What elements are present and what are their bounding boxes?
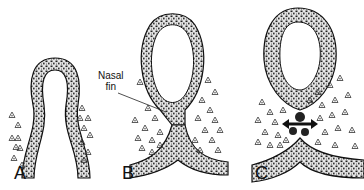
panel-a-fold: [22, 58, 90, 178]
panel-b-fold: [130, 14, 228, 178]
panel-c-fold: [252, 8, 364, 182]
panel-label-b: B: [122, 163, 134, 184]
nasal-fin-label-line1: Nasal: [98, 70, 124, 81]
diagram-canvas: [0, 0, 364, 190]
nasal-fin-label: Nasal fin: [98, 70, 124, 92]
panel-label-c: C: [255, 163, 268, 184]
nasal-fin-label-line2: fin: [98, 81, 124, 92]
panel-c-fin-remnant: [282, 112, 318, 136]
panel-label-a: A: [14, 163, 26, 184]
